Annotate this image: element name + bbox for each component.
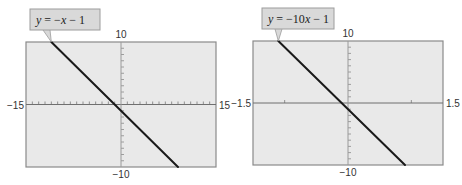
y-max-label: 10 xyxy=(115,29,127,40)
graph-y-equals-neg-10x-minus-1: 10 −10 −1.5 1.5 y = −10x − 1 xyxy=(231,8,460,178)
x-min-label: −15 xyxy=(7,100,24,111)
y-max-label: 10 xyxy=(342,28,354,39)
equation-callout: y = −x − 1 xyxy=(30,9,100,42)
x-max-label: 1.5 xyxy=(446,98,460,109)
y-min-label: −10 xyxy=(113,169,130,180)
graph-comparison-figure: 10 −10 −15 15 y = −x − 1 10 −10 −1.5 1.5… xyxy=(0,0,462,185)
graph-y-equals-neg-x-minus-1: 10 −10 −15 15 y = −x − 1 xyxy=(7,9,231,180)
y-min-label: −10 xyxy=(340,167,357,178)
equation-label: y = −10x − 1 xyxy=(267,12,329,26)
equation-callout: y = −10x − 1 xyxy=(262,8,334,41)
equation-label: y = −x − 1 xyxy=(35,13,85,27)
callout-pointer xyxy=(275,29,282,41)
x-min-label: −1.5 xyxy=(231,98,251,109)
callout-pointer xyxy=(43,30,51,42)
x-max-label: 15 xyxy=(219,100,231,111)
